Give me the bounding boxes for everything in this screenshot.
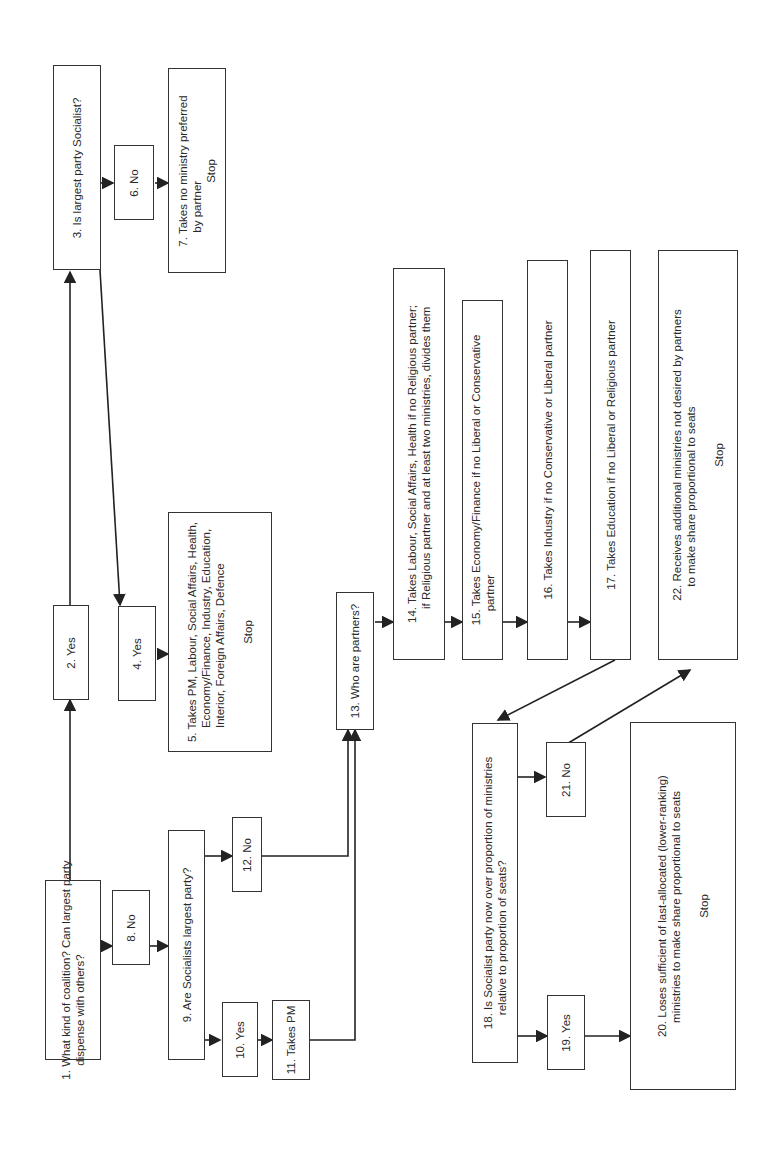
node-13-who-are-partners: 13. Who are partners? xyxy=(336,592,374,730)
node-8-no: 8. No xyxy=(112,890,150,965)
node-20-loses-ministries: 20. Loses sufficient of last-allocated (… xyxy=(630,722,736,1090)
node-9-socialists-largest-question: 9. Are Socialists largest party? xyxy=(168,830,205,1060)
node-22-receives-additional: 22. Receives additional ministries not d… xyxy=(658,250,738,660)
node-1-coalition-question: 1. What kind of coalition? Can largest p… xyxy=(45,880,101,1060)
node-2-yes: 2. Yes xyxy=(53,605,89,700)
node-19-yes: 19. Yes xyxy=(547,995,585,1070)
node-4-yes: 4. Yes xyxy=(118,606,156,701)
node-12-no: 12. No xyxy=(232,817,262,892)
node-15-economy-finance: 15. Takes Economy/Finance if no Liberal … xyxy=(462,300,503,660)
node-7-takes-no-ministry: 7. Takes no ministry preferred by partne… xyxy=(168,68,226,273)
node-6-no: 6. No xyxy=(114,145,154,220)
node-21-no: 21. No xyxy=(546,742,586,817)
node-11-takes-pm: 11. Takes PM xyxy=(272,1000,310,1080)
node-17-education: 17. Takes Education if no Liberal or Rel… xyxy=(590,250,631,660)
node-14-labour-social-health: 14. Takes Labour, Social Affairs, Health… xyxy=(393,268,445,660)
node-3-largest-socialist-question: 3. Is largest party Socialist? xyxy=(53,65,101,270)
node-18-over-proportion-question: 18. Is Socialist party now over proporti… xyxy=(472,723,518,1063)
node-10-yes: 10. Yes xyxy=(222,1002,258,1077)
node-5-takes-pm-and-ministries: 5. Takes PM, Labour, Social Affairs, Hea… xyxy=(168,512,272,752)
node-16-industry: 16. Takes Industry if no Conservative or… xyxy=(527,260,568,660)
